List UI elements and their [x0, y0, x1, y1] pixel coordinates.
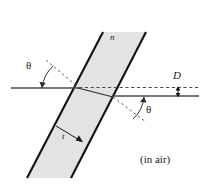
label-lateral-displacement: D: [173, 70, 181, 81]
theta2-arrowhead: [140, 97, 147, 102]
glass-slab-shape: [27, 32, 146, 178]
entry-construction-dashed: [46, 60, 79, 88]
displacement-arrow-up: [176, 86, 181, 90]
theta1-arrowhead: [39, 82, 45, 88]
diagram-canvas: [0, 0, 205, 184]
label-emergent-angle-theta: θ: [146, 104, 151, 115]
refraction-diagram: n θ θ D t (in air): [0, 0, 205, 184]
label-thickness: t: [62, 132, 65, 141]
label-medium-note: (in air): [140, 154, 170, 165]
label-index-of-refraction: n: [110, 33, 115, 42]
exit-construction-dashed: [113, 97, 146, 122]
label-incident-angle-theta: θ: [26, 60, 31, 71]
